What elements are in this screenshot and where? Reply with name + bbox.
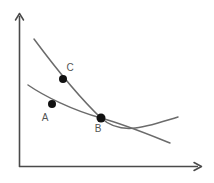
data-point-a-label: A bbox=[42, 112, 49, 123]
graph-canvas: A B C bbox=[0, 0, 214, 183]
data-point-b bbox=[97, 114, 106, 123]
data-point-c-label: C bbox=[66, 62, 73, 73]
curve-steep bbox=[34, 39, 178, 128]
data-point-b-label: B bbox=[95, 123, 102, 134]
graph-figure: A B C bbox=[0, 0, 214, 183]
data-point-c bbox=[59, 75, 67, 83]
data-point-a bbox=[48, 100, 56, 108]
